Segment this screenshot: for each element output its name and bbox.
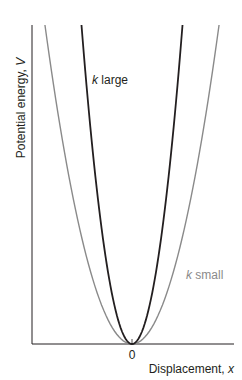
label-k-small: k small (186, 268, 223, 282)
curve-k-small (45, 25, 219, 344)
x-axis-title: Displacement, x (149, 362, 235, 376)
x-tick-zero: 0 (129, 348, 136, 362)
label-k-large: k large (92, 73, 128, 87)
y-axis-title: Potential energy, V (14, 57, 28, 159)
potential-energy-chart: k large k small 0 Displacement, x Potent… (0, 0, 242, 380)
